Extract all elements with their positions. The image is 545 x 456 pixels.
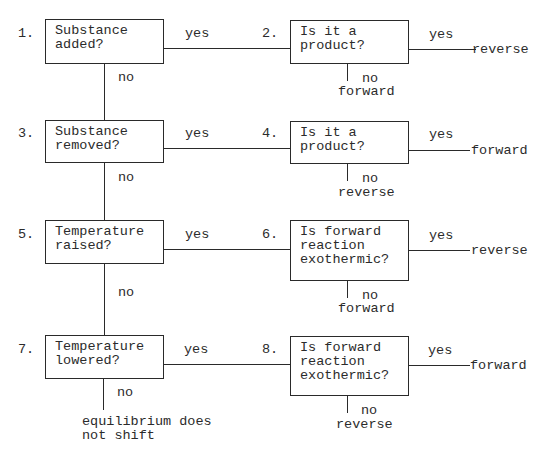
question-text: Is forward reaction exothermic? [300,341,389,383]
result-reverse-6: reverse [471,244,528,258]
connector-7-8 [163,364,291,365]
yes-label-7: yes [184,343,208,357]
yes-label-1: yes [185,27,209,41]
question-text: Is it a product? [300,25,365,53]
node-number-2: 2. [262,27,278,41]
node-number-1: 1. [18,27,34,41]
no-label-3: no [118,171,134,185]
node-number-4: 4. [262,127,278,141]
connector-4-yes [408,150,470,151]
connector-3-4 [163,148,291,149]
result-no-shift: equilibrium does not shift [82,415,212,443]
no-label-8: no [361,404,377,418]
connector-2-no [347,63,348,81]
connector-3-5 [104,162,105,221]
node-number-7: 7. [18,343,34,357]
result-forward-8: forward [470,359,527,373]
node-number-6: 6. [262,228,278,242]
decision-box-is-product-1: Is it a product? [290,20,409,64]
connector-1-2 [163,48,291,49]
yes-label-6: yes [429,229,453,243]
decision-box-substance-added: Substance added? [45,19,164,64]
connector-2-yes [408,49,476,50]
question-text: Temperature lowered? [55,340,144,368]
yes-label-8: yes [428,344,452,358]
no-label-1: no [118,71,134,85]
no-label-4: no [362,172,378,186]
no-label-7: no [117,386,133,400]
yes-label-4: yes [429,128,453,142]
result-forward-4: forward [471,144,528,158]
decision-box-temperature-raised: Temperature raised? [45,220,164,264]
connector-6-yes [408,250,470,251]
result-reverse-4: reverse [338,186,395,200]
decision-box-substance-removed: Substance removed? [45,120,164,163]
yes-label-3: yes [185,127,209,141]
decision-box-temperature-lowered: Temperature lowered? [45,335,164,379]
connector-4-no [347,163,348,181]
question-text: Substance removed? [55,125,128,153]
connector-1-3 [104,63,105,121]
decision-box-is-product-2: Is it a product? [290,121,409,164]
no-label-5: no [118,286,134,300]
question-text: Temperature raised? [55,225,144,253]
decision-box-exothermic-1: Is forward reaction exothermic? [290,220,409,281]
question-text: Is it a product? [300,126,365,154]
connector-7-no [103,378,104,410]
result-forward-2: forward [338,85,395,99]
decision-box-exothermic-2: Is forward reaction exothermic? [290,336,409,396]
result-reverse-2: reverse [472,43,529,57]
question-text: Is forward reaction exothermic? [300,225,389,267]
connector-6-no [347,280,348,298]
result-reverse-8: reverse [336,418,393,432]
connector-5-7 [104,263,105,336]
result-forward-6: forward [338,302,395,316]
connector-8-no [347,395,348,413]
yes-label-5: yes [185,228,209,242]
node-number-3: 3. [18,127,34,141]
connector-8-yes [408,365,470,366]
question-text: Substance added? [55,24,128,52]
connector-5-6 [163,249,291,250]
node-number-8: 8. [262,343,278,357]
yes-label-2: yes [429,28,453,42]
node-number-5: 5. [18,228,34,242]
